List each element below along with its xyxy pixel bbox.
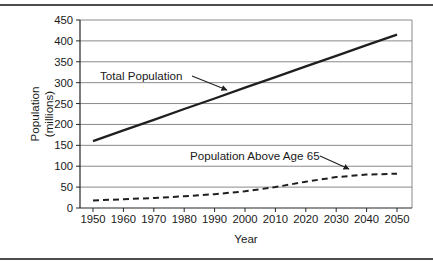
annotation-population-above-65: Population Above Age 65 <box>190 149 320 162</box>
x-tick-label-1970: 1970 <box>141 213 166 225</box>
x-tick-label-2000: 2000 <box>232 213 257 225</box>
series-group <box>93 35 397 201</box>
series-line-total-population <box>93 35 397 142</box>
y-tick-label-250: 250 <box>54 98 73 110</box>
y-tick-label-200: 200 <box>54 118 73 130</box>
population-line-chart: 0501001502002503003504004501950196019701… <box>0 0 433 267</box>
annotation-total-population: Total Population <box>100 69 183 82</box>
figure-container: 0501001502002503003504004501950196019701… <box>0 0 433 267</box>
axis-ticks-group: 0501001502002503003504004501950196019701… <box>54 14 409 225</box>
y-tick-label-150: 150 <box>54 139 73 151</box>
y-tick-label-400: 400 <box>54 35 73 47</box>
x-tick-label-2040: 2040 <box>354 213 379 225</box>
x-tick-label-1980: 1980 <box>172 213 197 225</box>
y-axis-title-line2: (millions) <box>42 91 55 138</box>
gridlines-group <box>80 20 412 187</box>
y-tick-label-450: 450 <box>54 14 73 26</box>
annotation-arrow-population-above-65 <box>320 156 349 169</box>
y-axis-title-line1: Population <box>28 87 41 142</box>
x-tick-label-2030: 2030 <box>324 213 349 225</box>
x-tick-label-1990: 1990 <box>202 213 227 225</box>
x-tick-label-1950: 1950 <box>80 213 105 225</box>
y-tick-label-50: 50 <box>60 181 73 193</box>
x-tick-label-2050: 2050 <box>384 213 409 225</box>
y-tick-label-0: 0 <box>67 202 73 214</box>
x-tick-label-1960: 1960 <box>111 213 136 225</box>
y-tick-label-300: 300 <box>54 77 73 89</box>
y-tick-label-350: 350 <box>54 56 73 68</box>
x-tick-label-2020: 2020 <box>293 213 318 225</box>
x-axis-title: Year <box>234 232 258 245</box>
y-tick-label-100: 100 <box>54 160 73 172</box>
x-tick-label-2010: 2010 <box>263 213 288 225</box>
